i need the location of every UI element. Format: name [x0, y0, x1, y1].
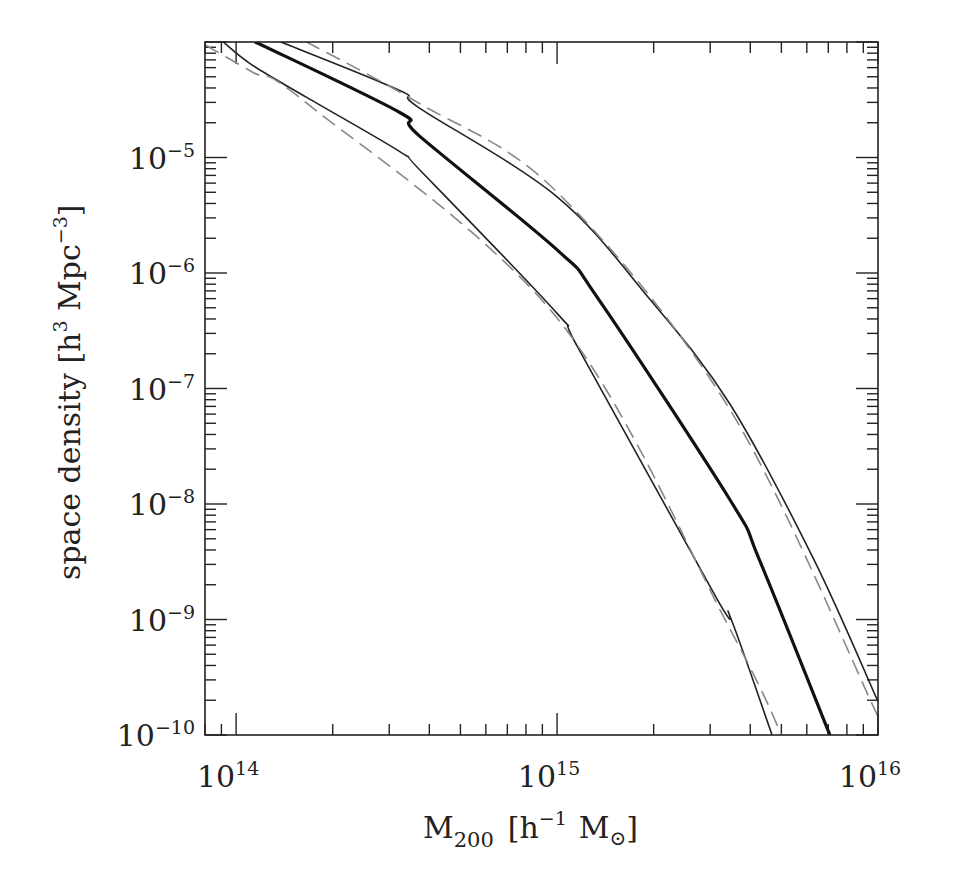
y-tick-label: 10−8: [129, 485, 195, 522]
curves: [206, 42, 878, 735]
y-tick-label: 10−7: [129, 370, 195, 407]
y-tick-label: 10−10: [117, 716, 195, 753]
x-tick-label: 1015: [518, 757, 580, 794]
y-tick-label: 10−5: [129, 139, 195, 176]
x-tick-label: 1016: [839, 757, 901, 794]
curve-central-thick: [255, 42, 830, 735]
axis-ticks: [205, 42, 878, 735]
curve-lower-dashed: [206, 46, 781, 736]
x-tick-label: 1014: [197, 757, 259, 794]
mass-function-chart: 10141015101610−510−610−710−810−910−10 M2…: [0, 0, 962, 882]
curve-upper-solid: [281, 42, 878, 702]
y-tick-label: 10−6: [129, 254, 195, 291]
y-tick-label: 10−9: [129, 601, 195, 638]
y-axis-label: space density [h3 Mpc−3]: [49, 204, 87, 580]
x-axis-label: M200[h−1M⊙]: [423, 807, 638, 852]
plot-frame: [205, 42, 878, 735]
tick-labels: 10141015101610−510−610−710−810−910−10: [117, 139, 901, 795]
curve-upper-dashed: [307, 42, 878, 717]
